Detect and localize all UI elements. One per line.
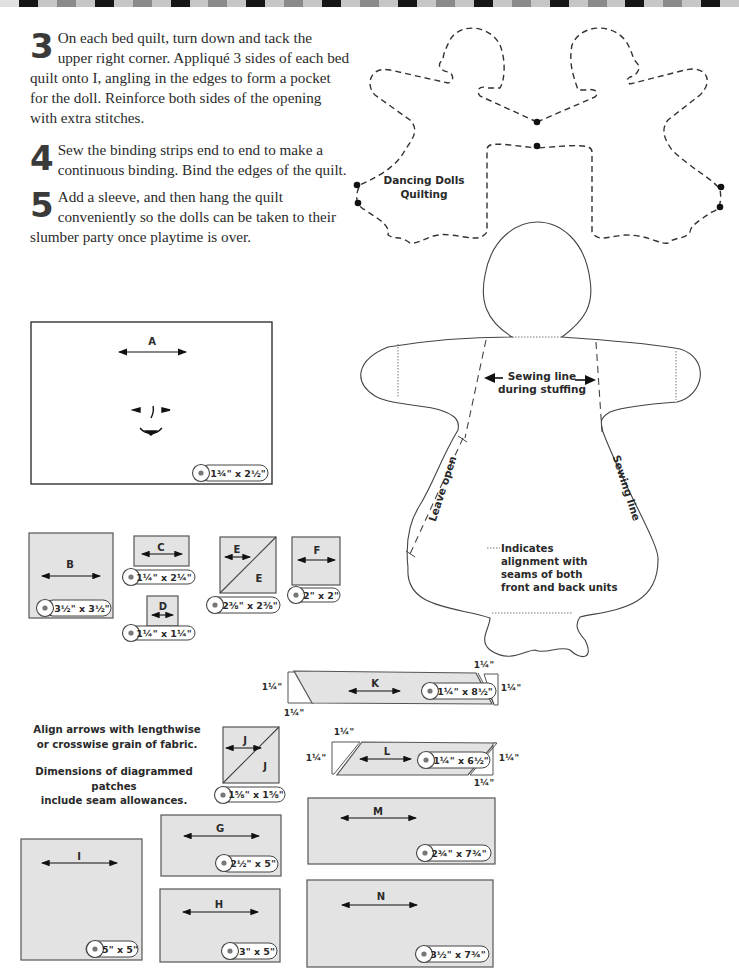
patch-m-size: 2¾" x 7¾" <box>431 848 487 859</box>
patch-l-trim-top: 1¼" <box>334 727 354 737</box>
patch-i: I 5" x 5" <box>21 839 142 960</box>
patch-k: K 1¼" x 8½" 1¼" 1¼" 1¼" 1¼" <box>262 660 521 718</box>
patch-c: C 1¼" x 2¼" <box>123 536 196 586</box>
patch-k-trim-right: 1¼" <box>501 683 521 693</box>
patch-l-size: 1¼" x 6½" <box>433 755 489 766</box>
patch-j-label-top: J <box>242 735 247 746</box>
patch-b-label: B <box>66 559 74 570</box>
patch-i-label: I <box>77 851 81 862</box>
patch-h-label: H <box>215 899 223 910</box>
dimensions-note: Dimensions of diagrammed patches include… <box>14 765 214 809</box>
patch-l-trim-left: 1¼" <box>306 753 326 763</box>
patch-d: D 1¼" x 1¼" <box>123 596 196 642</box>
patch-e: E E 2⅜" x 2⅜" <box>207 537 281 614</box>
grain-note: Align arrows with lengthwise or crosswis… <box>22 723 212 752</box>
patch-a-label: A <box>148 336 156 347</box>
patch-a-size: 1¾" x 2½" <box>210 468 266 479</box>
dimensions-note-line2: include seam allowances. <box>14 794 214 809</box>
patch-f: F 2" x 2" <box>288 537 341 604</box>
patch-n-label: N <box>377 891 385 902</box>
patch-d-size: 1¼" x 1¼" <box>136 628 192 639</box>
patch-g: G 2½" x 5" <box>161 815 281 876</box>
patch-h-size: 3" x 5" <box>239 946 275 957</box>
grain-note-line1: Align arrows with lengthwise <box>22 723 212 738</box>
grain-note-line2: or crosswise grain of fabric. <box>22 738 212 753</box>
patch-b-size: 3½" x 3½" <box>54 603 110 614</box>
patch-j-size: 1⅝" x 1⅝" <box>228 789 284 800</box>
patch-j-label-bottom: J <box>262 761 267 772</box>
dimensions-note-line1: Dimensions of diagrammed patches <box>14 765 214 794</box>
patch-diagrams: A 1¾" x 2½" B 3½" x 3½" C 1¼" x 2¼" <box>0 0 739 976</box>
patch-d-label: D <box>159 601 167 612</box>
patch-g-label: G <box>216 823 224 834</box>
patch-e-label-top: E <box>234 544 241 555</box>
patch-j: J J 1⅝" x 1⅝" <box>215 727 286 804</box>
patch-l-trim-right: 1¼" <box>499 753 519 763</box>
patch-m: M 2¾" x 7¾" <box>308 798 495 864</box>
patch-n: N 3½" x 7¾" <box>307 880 493 967</box>
patch-f-size: 2" x 2" <box>303 590 339 601</box>
patch-e-label-bottom: E <box>256 573 263 584</box>
patch-a: A 1¾" x 2½" <box>31 322 272 484</box>
patch-e-size: 2⅜" x 2⅜" <box>222 600 278 611</box>
patch-h: H 3" x 5" <box>160 889 280 962</box>
patch-l: L 1¼" x 6½" 1¼" 1¼" 1¼" 1¼" <box>306 727 519 788</box>
patch-k-label: K <box>371 678 380 689</box>
patch-g-size: 2½" x 5" <box>230 858 276 869</box>
patch-n-size: 3½" x 7¾" <box>430 949 486 960</box>
patch-m-label: M <box>373 806 383 817</box>
patch-b: B 3½" x 3½" <box>29 533 113 618</box>
patch-l-trim-bottom: 1¼" <box>474 778 494 788</box>
patch-c-size: 1¼" x 2¼" <box>136 572 192 583</box>
patch-k-trim-top: 1¼" <box>474 660 494 670</box>
patch-l-label: L <box>384 746 391 757</box>
patch-k-trim-left: 1¼" <box>262 682 282 692</box>
patch-k-trim-bottom: 1¼" <box>284 708 304 718</box>
patch-f-label: F <box>314 545 321 556</box>
patch-i-size: 5" x 5" <box>102 944 138 955</box>
patch-c-label: C <box>157 542 164 553</box>
patch-k-size: 1¼" x 8½" <box>437 686 493 697</box>
